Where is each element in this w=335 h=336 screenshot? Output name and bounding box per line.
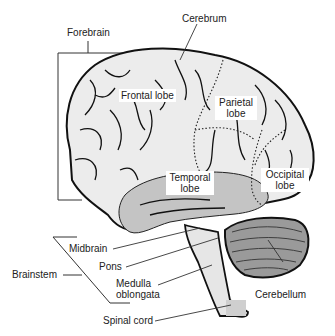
label-forebrain: Forebrain (67, 27, 110, 38)
label-midbrain: Midbrain (69, 243, 107, 254)
label-medulla-oblongata: Medulla oblongata (116, 278, 160, 300)
label-pons: Pons (99, 261, 122, 272)
label-occipital-line2: lobe (263, 180, 307, 191)
label-temporal-lobe: Temporal lobe (166, 171, 214, 195)
label-medulla-line2: oblongata (116, 289, 160, 300)
label-frontal-lobe: Frontal lobe (119, 89, 176, 102)
label-cerebellum: Cerebellum (255, 289, 306, 300)
label-spinal-cord: Spinal cord (103, 315, 153, 326)
label-parietal-lobe: Parietal lobe (215, 96, 257, 120)
label-parietal-line1: Parietal (217, 97, 255, 108)
label-brainstem: Brainstem (12, 269, 57, 280)
label-cerebrum: Cerebrum (182, 13, 226, 24)
label-occipital-lobe: Occipital lobe (261, 168, 309, 192)
label-parietal-line2: lobe (217, 108, 255, 119)
label-temporal-line1: Temporal (168, 172, 212, 183)
spinal-cord-segment (226, 300, 246, 316)
label-temporal-line2: lobe (168, 183, 212, 194)
label-occipital-line1: Occipital (263, 169, 307, 180)
label-medulla-line1: Medulla (116, 278, 160, 289)
